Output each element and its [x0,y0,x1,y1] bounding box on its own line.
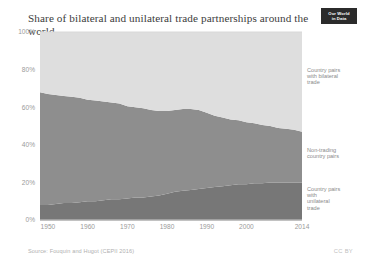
x-axis-tick-label: 1960 [80,223,95,230]
legend-label-nontrading: Non-tradingcountry pairs [307,147,339,159]
license-note: CC BY [334,248,353,254]
svg-text:trade: trade [307,79,320,85]
svg-text:trade: trade [307,205,320,211]
svg-text:country pairs: country pairs [307,153,339,159]
y-axis-tick-label: 0% [25,216,35,223]
legend-label-bilateral: Country pairswith bilateraltrade [306,67,340,85]
svg-text:Country pairs: Country pairs [307,186,340,192]
x-axis-tick-label: 1980 [160,223,175,230]
y-axis-tick-label: 20% [22,179,35,186]
x-axis-tick-label: 1990 [199,223,214,230]
svg-text:with: with [306,192,317,198]
y-axis-tick-label: 60% [22,104,35,111]
x-axis-tick-label: 2000 [239,223,254,230]
x-axis-tick-label: 1970 [120,223,135,230]
owid-logo: Our World in Data [321,8,357,24]
logo-line-2: in Data [321,16,357,21]
stacked-area-chart: 0%20%40%60%80%100%1950196019701980199020… [0,24,367,238]
svg-text:with bilateral: with bilateral [306,73,338,79]
chart-plot-area: 0%20%40%60%80%100%1950196019701980199020… [0,24,367,238]
svg-text:Non-trading: Non-trading [307,147,336,153]
legend-label-unilateral: Country pairswithunilateraltrade [306,186,340,211]
y-axis-tick-label: 80% [22,66,35,73]
x-axis-tick-label: 2014 [295,223,310,230]
x-axis-tick-label: 1950 [41,223,56,230]
chart-card: Share of bilateral and unilateral trade … [0,0,367,266]
y-axis-tick-label: 40% [22,141,35,148]
source-note: Source: Fouquin and Hugot (CEPII 2016) [28,248,134,254]
svg-text:unilateral: unilateral [307,198,330,204]
svg-text:Country pairs: Country pairs [307,67,340,73]
y-axis-tick-label: 100% [18,28,35,35]
